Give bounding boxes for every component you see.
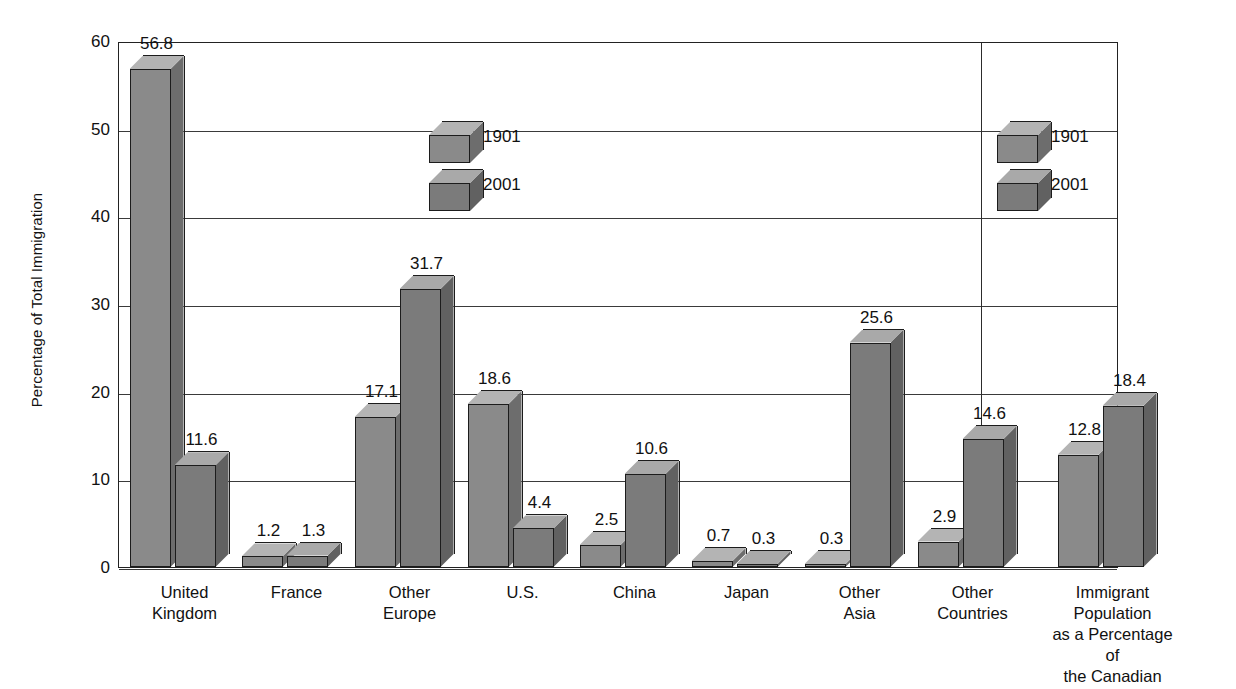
data-label: 4.4 [528,493,552,513]
bar-front-face [963,439,1004,567]
data-label: 31.7 [410,254,443,274]
bar-top-edge [481,390,522,391]
bar-side-edge [904,330,905,554]
bar-front-face [850,343,891,567]
data-label: 12.8 [1068,420,1101,440]
legend-swatch [425,167,485,213]
bar-front-face [997,183,1038,211]
bar [737,551,791,567]
y-axis-tick-labels: 0102030405060 [58,42,110,568]
bar-front-face [468,404,509,567]
bar-side-edge [679,461,680,554]
bar-front-face [130,69,171,567]
bar [287,543,341,567]
bar-front-face [175,465,216,567]
data-label: 25.6 [860,308,893,328]
bar [850,330,904,567]
bar-side-edge [1157,393,1158,554]
y-tick-label: 50 [66,120,110,140]
bar-front-face [692,561,733,567]
gridline [119,306,1117,307]
x-category-label: United Kingdom [152,582,217,624]
bar-top-edge [442,169,483,170]
bar-top-edge [1116,392,1157,393]
bar [1103,393,1157,567]
legend-entry: 2001 [993,167,1143,213]
data-label: 18.6 [478,369,511,389]
legend-left: 19012001 [425,119,575,215]
bar-front-face [580,545,621,567]
data-label: 2.5 [595,510,619,530]
data-label: 18.4 [1113,371,1146,391]
bar-front-face [287,556,328,567]
bar-front-face [429,135,470,163]
bar [400,276,454,567]
bar-front-face [918,542,959,567]
y-tick-label: 40 [66,207,110,227]
y-tick-label: 20 [66,383,110,403]
bar-top-edge [1010,169,1051,170]
x-category-label: Other Countries [937,582,1008,624]
bar-front-face [429,183,470,211]
bar-front-face [805,564,846,567]
y-axis-title: Percentage of Total Immigration [10,0,27,170]
gridline [119,394,1117,395]
bar-top-edge [863,329,904,330]
bar-side-edge [229,452,230,554]
bar-top-edge [143,55,184,56]
data-label: 14.6 [973,404,1006,424]
bar [625,461,679,567]
bar-top-edge [750,550,791,551]
bar-top-edge [300,542,341,543]
y-tick-label: 10 [66,470,110,490]
bar [513,515,567,567]
bar-top-edge [638,460,679,461]
data-label: 11.6 [186,430,218,450]
bar-side-face [666,461,679,567]
x-category-label: Japan [724,582,769,603]
bar-front-face [1103,406,1144,567]
data-label: 10.6 [635,439,668,459]
gridline [119,131,1117,132]
y-tick-label: 0 [66,558,110,578]
bar-side-face [216,452,229,567]
legend-swatch [425,119,485,165]
data-label: 2.9 [933,507,957,527]
y-axis-title-text: Percentage of Total Immigration [28,170,45,430]
legend-label: 2001 [483,175,521,195]
legend-label: 1901 [483,127,521,147]
legend-swatch-cube [997,122,1051,163]
bar [175,452,229,567]
y-tick-label: 30 [66,295,110,315]
bar-side-edge [791,551,792,554]
bar-top-edge [1010,121,1051,122]
bar-front-face [242,556,283,567]
data-label: 56.8 [140,34,173,54]
data-label: 0.7 [707,526,731,546]
bar [963,426,1017,567]
bar-top-edge [413,275,454,276]
bar-front-face [400,289,441,567]
legend-swatch-cube [997,170,1051,211]
legend-right: 19012001 [993,119,1143,215]
legend-swatch [993,119,1053,165]
cropped-title-fragment [0,0,1236,6]
bar-top-edge [442,121,483,122]
chart-root: Percentage of Total Immigration 01020304… [0,0,1236,689]
x-category-label: U.S. [506,582,538,603]
bar-front-face [355,417,396,567]
data-label: 0.3 [820,529,844,549]
x-category-label: Other Asia [839,582,880,624]
bar-front-face [625,474,666,567]
bar-side-edge [341,543,342,554]
bar-top-edge [526,514,567,515]
bar-top-edge [705,547,746,548]
data-label: 1.2 [257,521,281,541]
baseline-gridline [119,569,1117,570]
legend-label: 1901 [1051,127,1089,147]
x-category-label: China [613,582,656,603]
x-category-label: Immigrant Population as a Percentage of … [1051,582,1175,689]
data-label: 0.3 [752,529,776,549]
bar-front-face [1058,455,1099,567]
legend-swatch-cube [429,122,483,163]
